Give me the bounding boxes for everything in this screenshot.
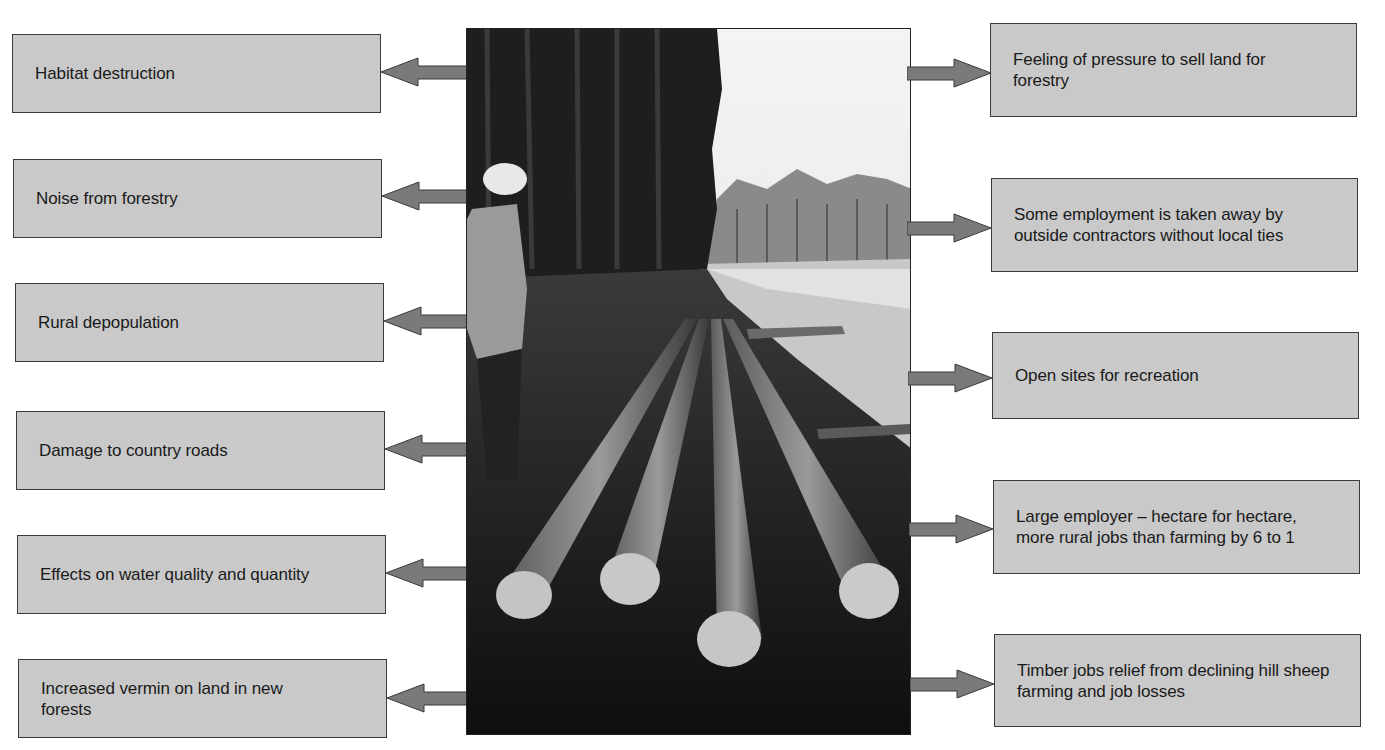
effect-box-vermin: Increased vermin on land in new forests — [18, 659, 387, 738]
forest-logs-image — [467, 29, 911, 735]
effect-label: Noise from forestry — [36, 188, 178, 209]
effect-box-noise: Noise from forestry — [13, 159, 382, 238]
effect-box-outside-contractors: Some employment is taken away by outside… — [991, 178, 1358, 272]
effect-label: Some employment is taken away by outside… — [1014, 204, 1335, 246]
arrow-left-icon — [386, 556, 474, 590]
arrow-left-icon — [384, 304, 472, 338]
arrow-left-icon — [382, 179, 470, 213]
arrow-right-icon — [910, 667, 994, 701]
effect-label: Effects on water quality and quantity — [40, 564, 309, 585]
effect-box-water-quality: Effects on water quality and quantity — [17, 535, 386, 614]
effect-label: Damage to country roads — [39, 440, 228, 461]
effect-box-rural-depopulation: Rural depopulation — [15, 283, 384, 362]
arrow-left-icon — [387, 681, 475, 715]
effect-label: Large employer – hectare for hectare, mo… — [1016, 506, 1337, 548]
effect-box-habitat-destruction: Habitat destruction — [12, 34, 381, 113]
effect-label: Open sites for recreation — [1015, 365, 1199, 386]
arrow-left-icon — [381, 55, 469, 89]
effect-box-road-damage: Damage to country roads — [16, 411, 385, 490]
effect-label: Timber jobs relief from declining hill s… — [1017, 660, 1330, 702]
effect-box-pressure-to-sell: Feeling of pressure to sell land for for… — [990, 23, 1357, 117]
arrow-right-icon — [909, 512, 993, 546]
effect-label: Increased vermin on land in new forests — [41, 678, 296, 720]
effect-box-recreation: Open sites for recreation — [992, 332, 1359, 419]
effect-label: Rural depopulation — [38, 312, 179, 333]
forestry-photo — [466, 28, 911, 735]
arrow-right-icon — [907, 211, 991, 245]
arrow-right-icon — [907, 56, 991, 90]
effect-label: Habitat destruction — [35, 63, 175, 84]
arrow-left-icon — [385, 432, 473, 466]
arrow-right-icon — [908, 361, 992, 395]
effect-box-timber-jobs: Timber jobs relief from declining hill s… — [994, 634, 1361, 727]
effect-box-large-employer: Large employer – hectare for hectare, mo… — [993, 480, 1360, 574]
effect-label: Feeling of pressure to sell land for for… — [1013, 49, 1316, 91]
